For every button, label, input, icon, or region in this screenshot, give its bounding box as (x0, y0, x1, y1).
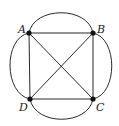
edge-CD-curved (30, 99, 93, 119)
label-D: D (18, 101, 28, 114)
label-A: A (17, 23, 26, 36)
vertex-B (90, 30, 95, 35)
vertex-C (90, 96, 95, 101)
vertex-A (26, 30, 31, 35)
graph-diagram: A B C D (0, 0, 119, 126)
edge-BC-curved (93, 33, 112, 99)
edge-AB-curved (29, 13, 93, 33)
edge-DA (29, 33, 30, 99)
graph-svg: A B C D (0, 0, 119, 126)
label-C: C (96, 101, 105, 114)
vertex-D (27, 96, 32, 101)
edge-DA-curved (10, 33, 30, 99)
label-B: B (96, 23, 105, 36)
